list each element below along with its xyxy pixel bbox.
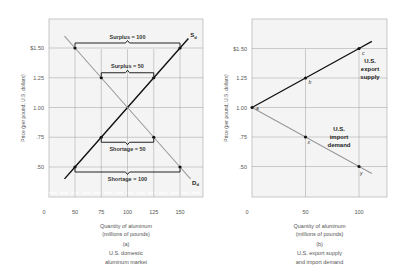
x-tick-label: 0 [42, 209, 45, 215]
x-tick-label: 100 [354, 209, 363, 215]
data-point [178, 46, 181, 49]
x-tick-label: 125 [149, 209, 158, 215]
panel-caption: U.S. domestic [109, 250, 143, 256]
y-tick-label: 1.25 [33, 75, 44, 81]
panel-label: (a) [123, 241, 130, 247]
y-tick-label: $1.50 [30, 45, 44, 51]
data-point [152, 136, 155, 139]
y-tick-label: .50 [239, 164, 247, 170]
point-label: b [309, 79, 312, 85]
point-label: y [359, 170, 363, 176]
point-label: x [307, 139, 311, 145]
data-point [152, 76, 155, 79]
x-tick-label: 50 [302, 209, 308, 215]
panel-caption: and import demand [296, 259, 343, 265]
y-tick-label: .50 [36, 164, 44, 170]
curve-label: import [330, 134, 349, 140]
data-point [73, 165, 76, 168]
curve-label: U.S. [364, 58, 376, 64]
data-point [178, 165, 181, 168]
point-label: a [256, 105, 259, 111]
panel-b-export-supply-import-demand: $1.501.251.00.75.50050100Price (per poun… [223, 19, 387, 265]
y-tick-label: 1.00 [33, 105, 44, 111]
shortage-label: Shortage = 100 [108, 176, 147, 182]
shortage-label: Shortage = 50 [109, 146, 145, 152]
data-point [250, 106, 253, 109]
data-point [357, 165, 360, 168]
chart-canvas: $1.501.251.00.75.5005075100125150Price (… [0, 0, 405, 272]
curve-label: supply [360, 74, 380, 80]
x-tick-label: 75 [98, 209, 104, 215]
y-tick-label: 1.00 [236, 105, 247, 111]
y-tick-label: .75 [36, 134, 44, 140]
data-point [100, 76, 103, 79]
surplus-label: Surplus = 100 [110, 34, 146, 40]
curve-label: demand [327, 142, 350, 148]
y-tick-label: 1.25 [236, 75, 247, 81]
data-point [73, 46, 76, 49]
y-tick-label: .75 [239, 134, 247, 140]
x-axis-title: Quantity of aluminum [294, 223, 346, 229]
y-axis-title: Price (per pound; U.S. dollars) [20, 74, 26, 142]
y-tick-label: $1.50 [233, 46, 247, 52]
data-point [100, 136, 103, 139]
x-axis-title: Quantity of aluminum [100, 223, 152, 229]
panel-label: (b) [316, 241, 323, 247]
data-point [304, 76, 307, 79]
y-axis-title: Price (per pound; U.S. dollars) [223, 74, 229, 142]
curve-label: U.S. [333, 126, 345, 132]
figure: $1.501.251.00.75.5005075100125150Price (… [0, 0, 405, 272]
panel-caption: aluminum market [105, 259, 148, 265]
surplus-label: Surplus = 50 [111, 63, 144, 69]
x-axis-title: (millions of pounds) [296, 231, 344, 237]
data-point [357, 47, 360, 50]
panel-caption: U.S. export supply [297, 250, 342, 256]
x-tick-label: 0 [245, 209, 248, 215]
x-tick-label: 150 [175, 209, 184, 215]
curve-label: export [361, 66, 379, 72]
x-tick-label: 100 [123, 209, 132, 215]
panel-a-domestic-market: $1.501.251.00.75.5005075100125150Price (… [20, 19, 203, 265]
x-axis-title: (millions of pounds) [102, 231, 150, 237]
x-tick-label: 50 [72, 209, 78, 215]
